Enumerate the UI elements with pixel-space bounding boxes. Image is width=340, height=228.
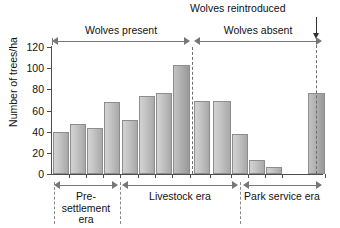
era-arrow-right-pre [112, 181, 118, 189]
bar-9 [194, 101, 210, 174]
divider-wolves-reintroduced [316, 40, 317, 174]
x-tick-13 [282, 174, 283, 178]
bar-11 [232, 134, 248, 174]
span-label-wolves-present: Wolves present [52, 24, 190, 36]
annotation-wolves-reintroduced: Wolves reintroduced [190, 2, 286, 14]
span-line-wolves-present [57, 41, 185, 42]
era-label-livestock: Livestock era [122, 191, 238, 203]
divider-wolves-present-absent [192, 47, 193, 174]
era-label-pre-line3: era [78, 213, 93, 225]
era-line-livestock [127, 185, 233, 186]
span-line-wolves-absent [199, 41, 316, 42]
y-tick-label-100: 100 [26, 63, 44, 73]
era-divider-livestock-park [240, 182, 241, 224]
x-tick-9 [210, 174, 211, 178]
bar-2 [70, 124, 86, 174]
bar-7 [156, 93, 172, 174]
span-arrow-right-present [184, 37, 190, 45]
y-tick-60 [47, 111, 52, 112]
bar-4 [104, 102, 120, 174]
y-tick-label-60: 60 [32, 106, 44, 116]
y-tick-label-40: 40 [32, 127, 44, 137]
bar-5 [122, 120, 138, 174]
era-label-pre-line1: Pre- [76, 190, 96, 202]
bar-13 [266, 167, 282, 174]
span-label-wolves-absent: Wolves absent [194, 24, 322, 36]
x-tick-5 [138, 174, 139, 178]
chart-root: Wolves reintroduced Wolves present Wolve… [0, 0, 340, 228]
bar-12 [249, 160, 265, 174]
bar-10 [213, 101, 231, 174]
x-tick-14 [325, 174, 326, 178]
era-arrow-right-livestock [232, 181, 238, 189]
y-tick-label-120: 120 [26, 42, 44, 52]
bar-1 [53, 132, 69, 174]
era-arrow-right-park [316, 181, 322, 189]
era-line-park-service [248, 185, 316, 186]
era-line-pre-settlement [59, 185, 113, 186]
x-tick-2 [86, 174, 87, 178]
bar-8 [173, 65, 190, 174]
y-tick-20 [47, 153, 52, 154]
y-tick-0 [47, 174, 52, 175]
y-tick-label-80: 80 [32, 84, 44, 94]
span-cap-present-start [52, 38, 53, 45]
x-tick-11 [248, 174, 249, 178]
x-tick-10 [231, 174, 232, 178]
x-tick-6 [155, 174, 156, 178]
era-label-park-service: Park service era [240, 191, 324, 203]
y-tick-120 [47, 47, 52, 48]
bar-6 [139, 96, 155, 174]
x-tick-4 [120, 174, 121, 178]
x-tick-12 [265, 174, 266, 178]
x-tick-8 [190, 174, 191, 178]
x-tick-3 [103, 174, 104, 178]
y-tick-40 [47, 132, 52, 133]
y-tick-80 [47, 89, 52, 90]
y-tick-label-0: 0 [38, 169, 44, 179]
bar-3 [87, 128, 103, 174]
y-axis-label: Number of trees/ha [7, 17, 19, 147]
y-tick-100 [47, 68, 52, 69]
era-label-pre-line2: settlement [62, 202, 110, 214]
x-tick-1 [69, 174, 70, 178]
era-label-pre-settlement: Pre- settlement era [46, 191, 126, 226]
x-tick-7 [172, 174, 173, 178]
y-tick-label-20: 20 [32, 148, 44, 158]
